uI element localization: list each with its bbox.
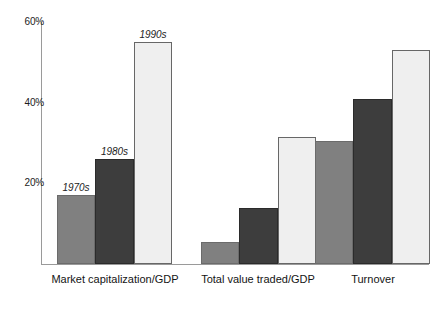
y-tick-20: 20% (0, 178, 44, 188)
y-tick-label-40: 40% (10, 98, 44, 108)
y-tick-60: 60% (0, 17, 44, 27)
y-axis-line (41, 22, 42, 265)
bar-label-1980s: 1980s (101, 146, 128, 157)
bar-1970s-turnover[interactable] (315, 141, 353, 264)
bar-label-1990s: 1990s (139, 29, 166, 40)
category-label-market-capitalization: Market capitalization/GDP (40, 273, 190, 286)
bar-1970s-market-capitalization[interactable]: 1970s (57, 195, 95, 264)
bar-group-market-capitalization: 1970s 1980s 1990s (57, 22, 172, 264)
bar-1980s-turnover[interactable] (353, 99, 392, 264)
bar-1980s-total-value-traded[interactable] (239, 208, 278, 264)
y-tick-mark-60 (38, 21, 43, 22)
bar-1990s-market-capitalization[interactable]: 1990s (134, 42, 172, 264)
y-tick-40: 40% (0, 98, 44, 108)
bar-1990s-turnover[interactable] (392, 50, 430, 264)
bar-1980s-market-capitalization[interactable]: 1980s (95, 159, 134, 264)
bar-group-total-value-traded (201, 22, 316, 264)
bar-group-turnover (315, 22, 430, 264)
bar-1990s-total-value-traded[interactable] (278, 137, 316, 264)
x-axis-baseline (41, 264, 429, 265)
bar-label-1970s: 1970s (62, 182, 89, 193)
y-tick-label-20: 20% (10, 178, 44, 188)
y-tick-mark-20 (38, 182, 43, 183)
bar-chart: 60% 40% 20% 1970s 1980s 1990s (0, 0, 432, 310)
y-tick-mark-40 (38, 102, 43, 103)
y-tick-label-60: 60% (10, 17, 44, 27)
bar-1970s-total-value-traded[interactable] (201, 242, 239, 264)
category-label-turnover: Turnover (298, 273, 432, 286)
plot-area: 60% 40% 20% 1970s 1980s 1990s (0, 0, 432, 310)
